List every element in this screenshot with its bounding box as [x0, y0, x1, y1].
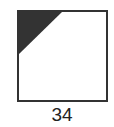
- figure-label: 34: [0, 104, 114, 126]
- shaded-triangle: [18, 11, 63, 55]
- square-figure: [17, 10, 108, 102]
- square-with-shaded-corner-icon: [17, 10, 108, 102]
